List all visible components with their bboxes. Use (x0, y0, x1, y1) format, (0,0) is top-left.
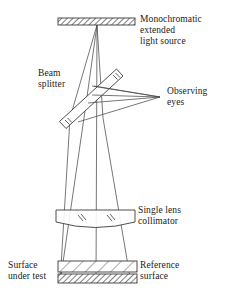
collimator-lens (56, 210, 135, 228)
reference-surface-plate (58, 261, 137, 272)
surface-under-test-label: Surface under test (8, 260, 46, 282)
beam-splitter-label: Beam splitter (38, 68, 65, 90)
beam-splitter-plate (60, 69, 124, 129)
observing-eyes-label: Observing eyes (167, 86, 207, 108)
surface-under-test-plate (58, 274, 137, 283)
collimator-label: Single lens collimator (138, 205, 181, 227)
optical-diagram-figure: Monochromatic extended light source Beam… (0, 0, 229, 297)
ray-bundle-illumination (60, 25, 131, 283)
reference-surface-label: Reference surface (140, 260, 179, 282)
light-source-label: Monochromatic extended light source (140, 14, 202, 48)
light-source-bar (58, 18, 135, 25)
